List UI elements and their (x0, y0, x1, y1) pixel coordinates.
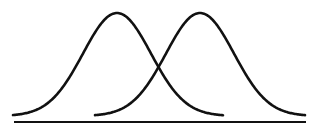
right-bell-curve (95, 13, 305, 115)
diagram-canvas (0, 0, 323, 125)
left-bell-curve (13, 13, 223, 115)
overlapping-bell-curves-diagram (0, 0, 323, 125)
